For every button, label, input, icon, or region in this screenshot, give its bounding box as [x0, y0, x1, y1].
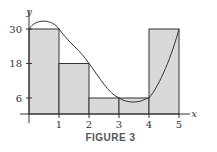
bar-1-2 [59, 64, 89, 115]
x-tick-label: 3 [116, 119, 122, 130]
x-tick-label: 4 [146, 119, 152, 130]
x-ticks [59, 114, 179, 118]
figure-caption: FIGURE 3 [0, 132, 217, 143]
y-tick-label: 6 [16, 93, 22, 104]
x-tick-label: 2 [86, 119, 92, 130]
y-axis-label: y [25, 6, 32, 17]
x-axis-label: x [191, 108, 197, 119]
y-tick-label: 18 [9, 58, 22, 69]
x-tick-label: 1 [56, 119, 62, 130]
chart-canvas: 1 2 3 4 5 6 18 30 y x [0, 0, 217, 152]
bar-0-1 [29, 29, 59, 114]
bars [29, 29, 179, 114]
bar-2-3 [89, 98, 119, 114]
y-tick-label: 30 [9, 24, 22, 35]
x-tick-label: 5 [176, 119, 182, 130]
